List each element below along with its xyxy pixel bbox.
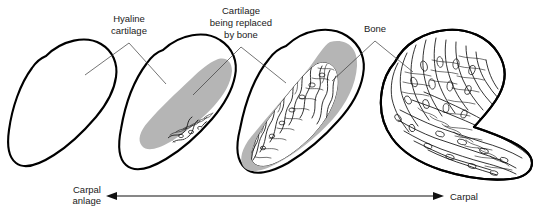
stage-1-carpal-anlage: [8, 40, 116, 167]
label-carpal: Carpal: [450, 191, 478, 202]
arrowhead-right-icon: [433, 192, 444, 200]
label-carpal-anlage-line1: Carpal: [73, 184, 101, 195]
progression-axis: Carpal anlage Carpal: [72, 184, 478, 206]
label-carpal-anlage-line2: anlage: [72, 195, 101, 206]
stage-3-advanced-ossification: [237, 30, 363, 175]
label-bone: Bone: [364, 23, 386, 34]
label-hyaline-cartilage-line1: Hyaline: [113, 13, 145, 24]
label-cartilage-replaced-line3: by bone: [224, 29, 258, 40]
arrowhead-left-icon: [106, 192, 117, 200]
label-cartilage-replaced-line2: being replaced: [210, 17, 272, 28]
stage-2-early-ossification: [119, 35, 236, 169]
label-hyaline-cartilage-line2: cartilage: [111, 25, 147, 36]
stage-1-outline: [8, 40, 116, 167]
label-cartilage-replaced-line1: Cartilage: [222, 5, 260, 16]
ossification-figure: Hyaline cartilage Cartilage being replac…: [0, 0, 541, 211]
figure-canvas: Hyaline cartilage Cartilage being replac…: [0, 0, 541, 211]
stage-4-mature-carpal: [381, 30, 532, 180]
